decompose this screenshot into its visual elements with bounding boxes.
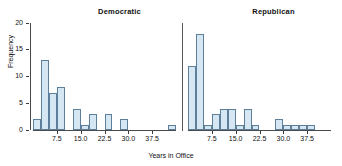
x-tick-label: 30.0	[270, 135, 296, 142]
histogram-bar	[105, 114, 113, 130]
x-tick-label: 37.5	[294, 135, 320, 142]
y-tick-label: 10	[5, 72, 23, 79]
histogram-bar	[228, 109, 236, 130]
histogram-bar	[196, 34, 204, 130]
x-tick	[307, 131, 308, 134]
x-tick-label: 15.0	[223, 135, 249, 142]
histogram-bar	[57, 87, 65, 130]
y-tick	[26, 49, 29, 50]
histogram-bar	[81, 125, 89, 130]
histogram-bar	[188, 66, 196, 130]
y-tick-label: 0	[5, 126, 23, 133]
y-tick-label: 20	[5, 19, 23, 26]
x-tick	[105, 131, 106, 134]
x-tick-label: 30.0	[115, 135, 141, 142]
histogram-bar	[89, 114, 97, 130]
histogram-bar	[120, 119, 128, 130]
y-tick	[26, 103, 29, 104]
histogram-bar	[236, 125, 244, 130]
histogram-bar	[283, 125, 291, 130]
x-tick	[57, 131, 58, 134]
y-tick	[26, 23, 29, 24]
histogram-bar	[168, 125, 176, 130]
x-tick-label: 22.5	[247, 135, 273, 142]
histogram-bar	[49, 93, 57, 130]
histogram-bar	[73, 109, 81, 130]
y-tick-label: 15	[5, 45, 23, 52]
panel-title-republican: Republican	[216, 7, 331, 16]
histogram-bar	[41, 60, 49, 130]
x-tick	[283, 131, 284, 134]
histogram-bar	[299, 125, 307, 130]
histogram-bar	[275, 119, 283, 130]
x-tick-label: 37.5	[139, 135, 165, 142]
histogram-figure: Democratic Republican Frequency Years in…	[0, 0, 342, 166]
histogram-bar	[307, 125, 315, 130]
histogram-bar	[220, 109, 228, 130]
histogram-bar	[33, 119, 41, 130]
y-tick	[26, 76, 29, 77]
histogram-bar	[252, 125, 260, 130]
histogram-bar	[204, 125, 212, 130]
histogram-bar	[291, 125, 299, 130]
x-tick-label: 15.0	[68, 135, 94, 142]
x-tick	[81, 131, 82, 134]
y-axis-line	[30, 23, 31, 130]
y-tick	[26, 130, 29, 131]
panel-divider	[182, 23, 183, 131]
x-tick	[152, 131, 153, 134]
x-tick	[128, 131, 129, 134]
x-tick	[260, 131, 261, 134]
x-tick-label: 7.5	[44, 135, 70, 142]
x-tick	[212, 131, 213, 134]
x-tick-label: 22.5	[92, 135, 118, 142]
x-tick	[236, 131, 237, 134]
y-tick-label: 5	[5, 99, 23, 106]
histogram-bar	[212, 114, 220, 130]
x-axis-label: Years in Office	[0, 152, 342, 159]
panel-title-democratic: Democratic	[62, 7, 177, 16]
histogram-bar	[244, 109, 252, 130]
x-tick-label: 7.5	[199, 135, 225, 142]
